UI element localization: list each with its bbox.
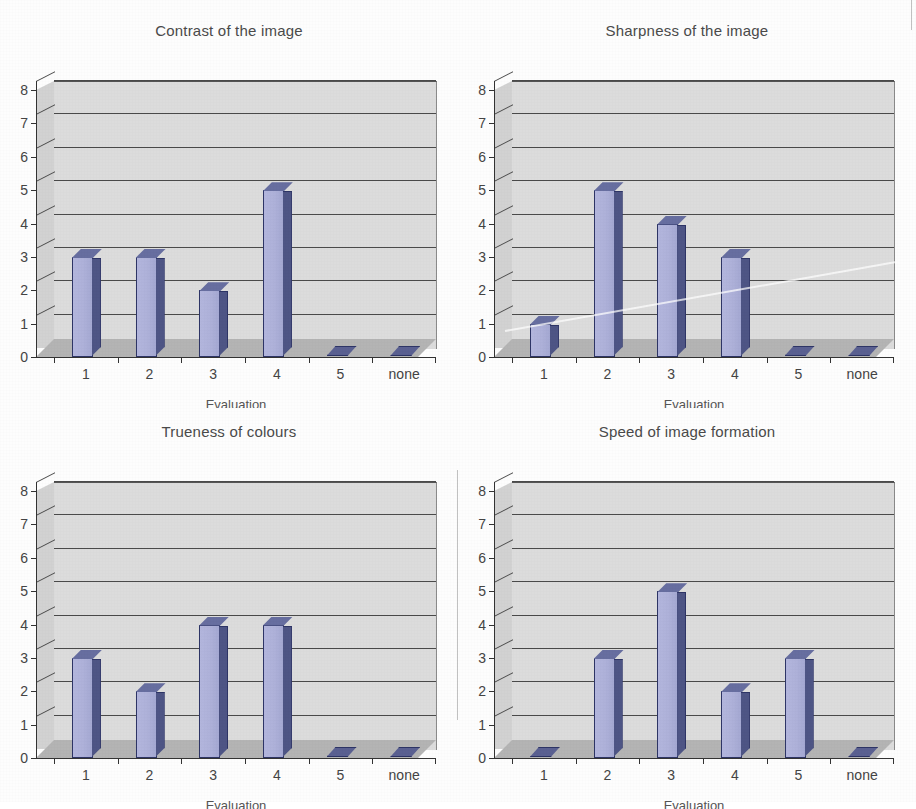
x-axis-tick xyxy=(181,357,182,363)
y-axis-tick xyxy=(31,558,37,559)
bar-side-face xyxy=(219,291,228,356)
y-axis-tick-label: 7 xyxy=(20,517,28,531)
y-axis-tick-label: 5 xyxy=(20,584,28,598)
y-axis-tick-label: 5 xyxy=(20,183,28,197)
x-axis-tick xyxy=(703,357,704,363)
bar xyxy=(594,658,615,758)
plot-area: 01234567812345noneEvaluation xyxy=(494,72,894,362)
x-axis-tick-label: 1 xyxy=(82,366,90,382)
bar xyxy=(327,751,348,753)
bar xyxy=(848,751,869,753)
x-axis-tick-label: none xyxy=(389,767,420,783)
y-axis-tick-label: 5 xyxy=(478,584,486,598)
y-axis-tick xyxy=(31,324,37,325)
y-axis-tick-label: 3 xyxy=(20,651,28,665)
y-axis-tick-label: 8 xyxy=(20,83,28,97)
y-axis-tick-label: 7 xyxy=(478,517,486,531)
y-axis-tick-label: 4 xyxy=(478,618,486,632)
bar xyxy=(136,691,157,758)
x-axis-tick xyxy=(118,357,119,363)
x-axis-tick xyxy=(703,758,704,764)
bar xyxy=(390,751,411,753)
bar xyxy=(263,190,284,357)
y-axis-tick-label: 6 xyxy=(20,551,28,565)
x-axis-tick xyxy=(512,357,513,363)
y-axis-tick xyxy=(31,123,37,124)
x-axis-tick xyxy=(54,357,55,363)
y-axis-tick xyxy=(31,290,37,291)
x-axis-line xyxy=(494,357,894,358)
y-axis-tick-label: 0 xyxy=(20,751,28,765)
plot-side-wall xyxy=(36,482,54,749)
x-axis-tick-label: 3 xyxy=(667,767,675,783)
y-axis-tick-label: 6 xyxy=(478,150,486,164)
bar xyxy=(390,350,411,352)
y-axis-tick xyxy=(31,658,37,659)
bar xyxy=(594,190,615,357)
x-axis-line xyxy=(494,758,894,759)
y-axis-tick xyxy=(489,725,495,726)
chart-title: Trueness of colours xyxy=(0,423,458,440)
x-axis-tick-label: 2 xyxy=(604,366,612,382)
x-axis-tick-label: 4 xyxy=(731,767,739,783)
plot-side-wall xyxy=(36,81,54,348)
x-axis-tick xyxy=(245,357,246,363)
y-axis-tick-label: 5 xyxy=(478,183,486,197)
x-axis-tick xyxy=(372,357,373,363)
y-axis-tick-label: 1 xyxy=(20,718,28,732)
y-axis-tick xyxy=(489,324,495,325)
y-axis-tick-label: 8 xyxy=(478,484,486,498)
y-axis-tick xyxy=(489,691,495,692)
y-axis-tick-label: 1 xyxy=(478,317,486,331)
x-axis-tick-label: 4 xyxy=(273,767,281,783)
x-axis-tick-label: 2 xyxy=(604,767,612,783)
bar xyxy=(199,625,220,759)
y-axis-tick-label: 3 xyxy=(478,651,486,665)
y-axis-tick-label: 7 xyxy=(478,116,486,130)
bar xyxy=(72,257,93,357)
bar-side-face xyxy=(219,626,228,758)
bar xyxy=(530,324,551,357)
bar-side-face xyxy=(741,258,750,356)
plot-back-wall xyxy=(512,81,895,349)
plot-side-wall xyxy=(494,81,512,348)
x-axis-tick xyxy=(245,758,246,764)
chart-title: Contrast of the image xyxy=(0,22,458,39)
y-axis-tick-label: 0 xyxy=(20,350,28,364)
x-axis-tick-label: 1 xyxy=(540,366,548,382)
bar xyxy=(327,350,348,352)
gridline xyxy=(494,472,894,482)
x-axis-tick-label: 5 xyxy=(795,366,803,382)
x-axis-tick-label: 5 xyxy=(337,366,345,382)
gridline xyxy=(36,472,436,482)
x-axis-tick xyxy=(576,758,577,764)
y-axis-tick-label: 2 xyxy=(478,684,486,698)
y-axis-tick-label: 4 xyxy=(20,618,28,632)
y-axis-tick xyxy=(489,658,495,659)
x-axis-tick xyxy=(830,758,831,764)
bar-side-face xyxy=(677,592,686,757)
gridline xyxy=(36,71,436,81)
bar xyxy=(721,257,742,357)
x-axis-title: Evaluation xyxy=(494,798,894,809)
x-axis-tick xyxy=(118,758,119,764)
y-axis-tick xyxy=(489,190,495,191)
y-axis-tick xyxy=(489,90,495,91)
bar xyxy=(72,658,93,758)
plot-back-wall xyxy=(512,482,895,750)
chart-sharpness: Sharpness of the image 01234567812345non… xyxy=(458,0,916,401)
x-axis-tick-label: 5 xyxy=(337,767,345,783)
bar xyxy=(721,691,742,758)
plot-side-wall xyxy=(494,482,512,749)
bar-side-face xyxy=(614,191,623,356)
bar xyxy=(263,625,284,759)
y-axis-tick xyxy=(489,290,495,291)
x-axis-line xyxy=(36,357,436,358)
y-axis-tick-label: 8 xyxy=(478,83,486,97)
chart-contrast: Contrast of the image 01234567812345none… xyxy=(0,0,458,401)
bar-side-face xyxy=(283,191,292,356)
x-axis-tick xyxy=(309,758,310,764)
x-axis-tick xyxy=(54,758,55,764)
x-axis-tick xyxy=(767,758,768,764)
y-axis-tick xyxy=(489,157,495,158)
